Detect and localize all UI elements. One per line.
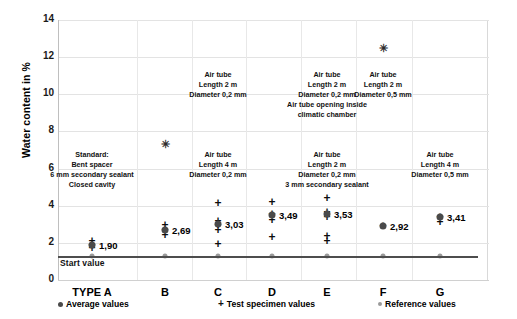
chart-annotation: Standard:Bent spacer6 mm secondary seala… bbox=[50, 150, 134, 190]
chart-annotation: Air tubeLength 4 mDiameter 0,2 mm bbox=[189, 150, 247, 180]
test-specimen-marker: + bbox=[213, 239, 223, 249]
chart-legend: Average values+Test specimen valuesRefer… bbox=[58, 299, 498, 313]
gridline-horizontal bbox=[59, 131, 489, 132]
x-axis-category-label: E bbox=[323, 286, 330, 298]
annotation-line: Standard: bbox=[50, 150, 134, 160]
chart-annotation: Air tubeLength 2 mDiameter 0,2 mm bbox=[189, 70, 247, 100]
x-axis-category-label: TYPE A bbox=[72, 286, 111, 298]
y-axis-tick-labels: 02468101214 bbox=[0, 0, 54, 319]
annotation-line: Air tube bbox=[285, 150, 369, 160]
annotation-line: climatic chamber bbox=[287, 110, 367, 120]
average-value-marker bbox=[89, 241, 96, 248]
gridline-horizontal bbox=[59, 57, 489, 58]
test-specimen-marker: + bbox=[322, 193, 332, 203]
x-axis-category-label: F bbox=[380, 286, 387, 298]
average-value-label: 2,92 bbox=[390, 220, 409, 231]
average-value-label: 1,90 bbox=[99, 239, 118, 250]
start-value-label: Start value bbox=[60, 258, 105, 268]
statistical-outlier-marker: ✳ bbox=[377, 42, 389, 54]
gridline-horizontal bbox=[59, 20, 489, 21]
y-tick-label: 6 bbox=[6, 162, 54, 173]
x-axis-category-label: B bbox=[161, 286, 169, 298]
average-value-marker bbox=[324, 211, 331, 218]
annotation-line: Diameter 0,5 mm bbox=[354, 90, 412, 100]
test-specimen-marker: + bbox=[267, 197, 277, 207]
chart-annotation: Air tubeLength 2 mDiameter 0,5 mm bbox=[354, 70, 412, 100]
test-specimen-marker: + bbox=[213, 198, 223, 208]
legend-label: Reference values bbox=[385, 299, 456, 309]
test-specimen-marker: + bbox=[267, 232, 277, 242]
annotation-line: Air tube opening inside bbox=[287, 100, 367, 110]
annotation-line: Length 2 m bbox=[354, 80, 412, 90]
x-axis-category-label: D bbox=[268, 286, 276, 298]
y-tick-label: 2 bbox=[6, 236, 54, 247]
chart-annotation: Air tubeLength 2 mDiameter 0,2 mm3 mm se… bbox=[285, 150, 369, 190]
y-tick-label: 10 bbox=[6, 87, 54, 98]
average-value-marker bbox=[162, 227, 169, 234]
chart-root: Water content in % 02468101214 +++++++++… bbox=[0, 0, 517, 319]
average-value-marker bbox=[215, 220, 222, 227]
annotation-line: Diameter 0,2 mm bbox=[189, 170, 247, 180]
x-axis-category-label: G bbox=[436, 286, 445, 298]
average-value-marker bbox=[437, 213, 444, 220]
annotation-line: Length 4 m bbox=[411, 160, 469, 170]
legend-label: Average values bbox=[66, 299, 129, 309]
x-axis-category-label: C bbox=[214, 286, 222, 298]
statistical-outlier-marker: ✳ bbox=[159, 138, 171, 150]
annotation-line: Length 2 m bbox=[285, 160, 369, 170]
plus-icon: + bbox=[218, 300, 224, 308]
y-tick-label: 12 bbox=[6, 50, 54, 61]
legend-label: Test specimen values bbox=[227, 299, 315, 309]
annotation-line: Air tube bbox=[411, 150, 469, 160]
legend-item: Average values bbox=[58, 299, 129, 309]
x-axis-line bbox=[58, 280, 489, 281]
annotation-line: Air tube bbox=[189, 70, 247, 80]
annotation-line: Closed cavity bbox=[50, 180, 134, 190]
average-values-icon bbox=[58, 302, 63, 307]
legend-item: +Test specimen values bbox=[218, 299, 315, 309]
legend-item: Reference values bbox=[378, 299, 456, 309]
annotation-line: Diameter 0,5 mm bbox=[411, 170, 469, 180]
average-value-label: 3,41 bbox=[447, 211, 466, 222]
y-tick-label: 0 bbox=[6, 273, 54, 284]
y-tick-label: 14 bbox=[6, 13, 54, 24]
annotation-line: Air tube bbox=[354, 70, 412, 80]
annotation-line: Diameter 0,2 mm bbox=[285, 170, 369, 180]
y-tick-label: 8 bbox=[6, 124, 54, 135]
average-value-label: 3,49 bbox=[279, 210, 298, 221]
average-value-marker bbox=[269, 212, 276, 219]
test-specimen-marker: + bbox=[322, 231, 332, 241]
gridline-horizontal bbox=[59, 94, 489, 95]
average-value-marker bbox=[380, 222, 387, 229]
reference-values-icon bbox=[378, 302, 382, 306]
average-value-label: 3,03 bbox=[225, 218, 244, 229]
annotation-line: 3 mm secondary sealant bbox=[285, 180, 369, 190]
annotation-line: Bent spacer bbox=[50, 160, 134, 170]
average-value-label: 3,53 bbox=[334, 209, 353, 220]
annotation-line: Diameter 0,2 mm bbox=[189, 90, 247, 100]
annotation-line: Air tube bbox=[189, 150, 247, 160]
average-value-label: 2,69 bbox=[172, 225, 191, 236]
start-value-line bbox=[58, 256, 478, 258]
annotation-line: Length 4 m bbox=[189, 160, 247, 170]
annotation-line: Length 2 m bbox=[189, 80, 247, 90]
y-tick-label: 4 bbox=[6, 199, 54, 210]
chart-annotation: Air tubeLength 4 mDiameter 0,5 mm bbox=[411, 150, 469, 180]
gridline-vertical bbox=[137, 20, 138, 280]
annotation-line: 6 mm secondary sealant bbox=[50, 170, 134, 180]
